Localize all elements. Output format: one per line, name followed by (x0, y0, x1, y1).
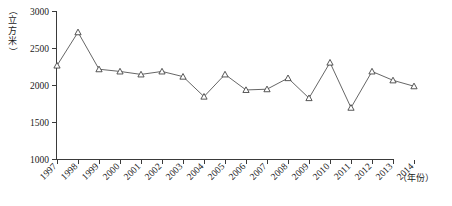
x-axis-tick-label: 2005 (206, 161, 227, 182)
y-axis-tick-label: 3000 (30, 7, 49, 17)
data-point-marker (96, 66, 102, 72)
data-point-marker (75, 29, 81, 35)
y-axis-tick-label: 2500 (30, 44, 49, 54)
data-point-marker (159, 68, 165, 74)
data-point-marker (285, 75, 291, 81)
data-point-marker (222, 71, 228, 77)
data-point-marker (369, 68, 375, 74)
x-axis-tick-label: 2004 (185, 161, 206, 182)
data-point-marker (54, 62, 60, 68)
x-axis-tick-label: 2003 (164, 161, 185, 182)
x-axis-tick-label: 2008 (269, 161, 290, 182)
chart-container: （ 立 方 米 ） （年份） 10001500200025003000 1997… (0, 0, 452, 206)
y-axis-tick-group: 10001500200025003000 (30, 7, 57, 165)
data-series-line (57, 32, 414, 107)
x-axis-tick-label: 1999 (80, 161, 101, 182)
x-axis-tick-group: 1997199819992000200120022003200420052006… (38, 160, 416, 182)
x-axis-tick-label: 2012 (353, 161, 374, 182)
x-axis-tick-label: 1998 (59, 161, 80, 182)
x-axis-tick-label: 2007 (248, 161, 269, 182)
y-axis-tick-label: 1500 (30, 118, 49, 128)
y-axis-tick-label: 1000 (30, 155, 49, 165)
data-point-marker (327, 59, 333, 65)
x-axis-tick-label: 2002 (143, 161, 164, 182)
x-axis-tick-label: 2011 (332, 161, 352, 181)
x-axis-tick-label: 2014 (395, 161, 416, 182)
x-axis-tick-label: 2013 (374, 161, 395, 182)
data-point-markers (54, 29, 417, 110)
data-point-marker (348, 105, 354, 111)
x-axis-tick-label: 2006 (227, 161, 248, 182)
line-chart-plot: 10001500200025003000 1997199819992000200… (0, 0, 452, 206)
data-point-marker (390, 77, 396, 83)
x-axis-tick-label: 2009 (290, 161, 311, 182)
x-axis-tick-label: 2000 (101, 161, 122, 182)
x-axis-tick-label: 2001 (122, 161, 143, 182)
x-axis-tick-label: 2010 (311, 161, 332, 182)
y-axis-tick-label: 2000 (30, 81, 49, 91)
